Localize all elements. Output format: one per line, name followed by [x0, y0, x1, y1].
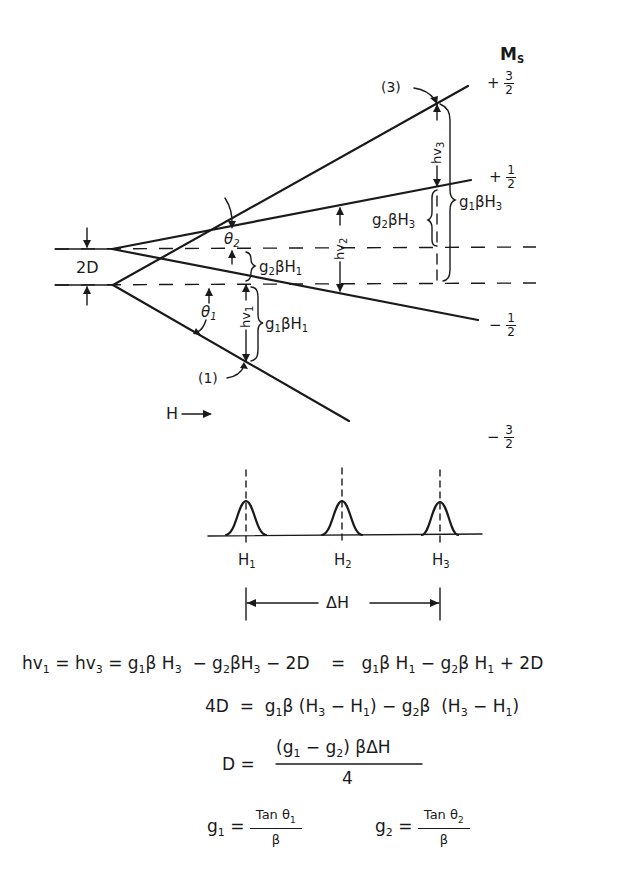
theta1-label: θ1 [201, 305, 217, 322]
g1bh3-brace [440, 104, 455, 281]
level-line-plus-three-halves [113, 86, 468, 285]
level-label-plus-three-halves: + 32 [487, 70, 514, 96]
g2-beta-h1-label: g2βH1 [259, 260, 302, 277]
level-line-minus-three-halves [113, 285, 349, 421]
equation-g1: g1 = Tan θ1 β [207, 808, 302, 846]
g1-beta-h1-label: g1βH1 [265, 317, 308, 334]
g2-beta-h3-label: g2βH3 [372, 213, 415, 230]
transition-3-label: (3) [381, 80, 401, 94]
peak-label-h1: H1 [238, 553, 256, 570]
equation-3-denominator: 4 [342, 770, 353, 787]
level-label-minus-three-halves: − 32 [487, 424, 514, 450]
zero-field-splitting-label: 2D [76, 260, 99, 276]
ms-axis-label: MS [500, 46, 524, 65]
spectrum-baseline [208, 534, 482, 536]
level-label-plus-one-half: + 12 [489, 164, 516, 190]
equation-2: 4D = g1β (H3 − H1) − g2β (H3 − H1) [205, 698, 519, 718]
equation-g2: g2 = Tan θ2 β [375, 808, 470, 846]
g2bh3-brace [428, 190, 437, 246]
hv3-label: hv3 [430, 142, 446, 164]
peak-label-h3: H3 [432, 553, 450, 570]
hv1-label: hv1 [239, 306, 255, 328]
hv2-label: hv2 [333, 238, 349, 260]
delta-h-label: ΔH [326, 595, 349, 611]
upper-reference-dashed-line [55, 247, 536, 249]
transition-1-label: (1) [198, 371, 218, 385]
theta2-label: θ2 [224, 232, 240, 249]
level-line-plus-one-half [112, 180, 471, 249]
equation-1: hv1 = hv3 = g1β H3 − g2βH3 − 2D = g1β H1… [22, 655, 543, 675]
field-label: H [166, 406, 178, 422]
peak-label-h2: H2 [334, 553, 352, 570]
g1-beta-h3-label: g1βH3 [459, 195, 502, 212]
equation-3-lhs: D = [222, 756, 255, 773]
g2-fraction: Tan θ2 β [418, 808, 470, 846]
equation-3-numerator: (g1 − g2) βΔH [276, 739, 391, 759]
level-label-minus-one-half: − 12 [489, 312, 516, 338]
g1-fraction: Tan θ1 β [250, 808, 302, 846]
